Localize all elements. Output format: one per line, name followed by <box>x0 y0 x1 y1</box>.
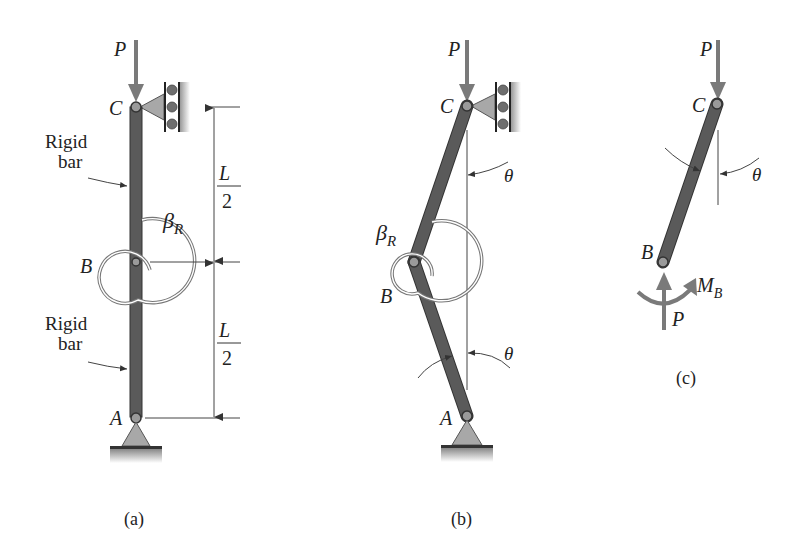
joint-label-c: C <box>692 94 706 116</box>
svg-text:L: L <box>218 319 230 341</box>
load-arrow-p-top <box>710 40 726 100</box>
angle-arrow-upper <box>468 162 508 175</box>
rigid-bar-label-top-line2: bar <box>58 151 83 172</box>
joint-label-b: B <box>641 241 653 263</box>
joint-label-b: B <box>380 285 392 307</box>
rigid-bar-label-bottom-line2: bar <box>58 333 83 354</box>
spring-label: βR <box>162 208 183 237</box>
caption-b: (b) <box>451 509 472 530</box>
load-label-p-top: P <box>699 38 712 60</box>
panel-b: P βR C B A <box>375 38 521 530</box>
svg-text:2: 2 <box>222 347 232 369</box>
roller-support <box>471 82 521 132</box>
moment-label: MB <box>696 274 723 301</box>
dimension-label-lower: L 2 <box>217 319 241 369</box>
caption-a: (a) <box>124 509 144 530</box>
caption-c: (c) <box>676 368 696 389</box>
angle-label-upper: θ <box>504 165 513 186</box>
rigid-bar-pointer-top <box>88 178 127 186</box>
rigid-bar-label-bottom-line1: Rigid <box>45 313 88 334</box>
angle-label: θ <box>752 164 761 185</box>
load-label-p-bottom: P <box>671 308 684 330</box>
load-arrow-p <box>128 40 144 102</box>
load-label-p: P <box>113 38 126 60</box>
pin-b <box>132 258 140 266</box>
rotational-spring <box>392 221 482 301</box>
joint-label-c: C <box>440 95 454 117</box>
rigid-bar-label-top-line1: Rigid <box>45 131 88 152</box>
buckling-diagram: P βR C B A <box>0 0 791 550</box>
roller-support <box>140 82 190 132</box>
svg-text:2: 2 <box>222 190 232 212</box>
pin-c <box>462 101 472 111</box>
pin-c <box>131 102 141 112</box>
pin-c <box>712 99 722 109</box>
dimension-lines <box>145 107 240 418</box>
pin-b <box>658 257 668 267</box>
load-arrow-p <box>459 40 475 102</box>
pin-b <box>409 257 419 267</box>
joint-label-a: A <box>438 407 453 429</box>
dimension-label-upper: L 2 <box>217 162 241 212</box>
rigid-bar-pointer-bottom <box>88 362 127 369</box>
panel-a: P βR C B A <box>45 38 241 530</box>
joint-label-b: B <box>80 255 92 277</box>
panel-c: P C B θ P MB (c) <box>638 38 761 389</box>
angle-label-lower: θ <box>504 343 513 364</box>
spring-label: βR <box>375 220 396 249</box>
joint-label-c: C <box>109 97 123 119</box>
joint-label-a: A <box>108 407 123 429</box>
svg-text:L: L <box>218 162 230 184</box>
load-label-p: P <box>447 38 460 60</box>
